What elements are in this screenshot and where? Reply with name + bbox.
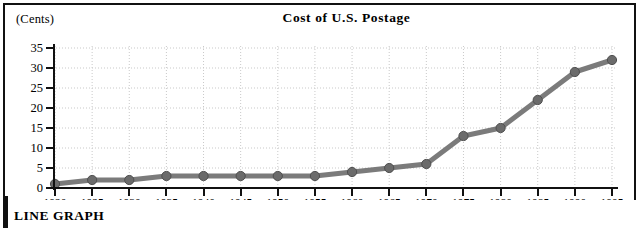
- data-point-marker: [310, 171, 319, 180]
- data-point-marker: [570, 67, 579, 76]
- data-series-line: [55, 60, 612, 184]
- line-graph-figure: (Cents) Cost of U.S. Postage 05101520253…: [0, 0, 641, 228]
- chart-plot-area: [0, 0, 641, 228]
- data-point-marker: [236, 171, 245, 180]
- data-point-marker: [607, 55, 616, 64]
- data-point-marker: [88, 175, 97, 184]
- data-point-marker: [125, 175, 134, 184]
- data-point-marker: [496, 123, 505, 132]
- figure-caption: LINE GRAPH: [14, 208, 104, 224]
- data-point-marker: [199, 171, 208, 180]
- y-axis-line: [53, 44, 55, 190]
- data-point-marker: [533, 95, 542, 104]
- data-point-marker: [273, 171, 282, 180]
- data-point-marker: [162, 171, 171, 180]
- data-point-marker: [347, 167, 356, 176]
- data-point-marker: [385, 163, 394, 172]
- x-axis-line: [53, 187, 618, 189]
- frame-left-accent: [3, 196, 8, 228]
- data-point-marker: [422, 159, 431, 168]
- data-point-marker: [459, 131, 468, 140]
